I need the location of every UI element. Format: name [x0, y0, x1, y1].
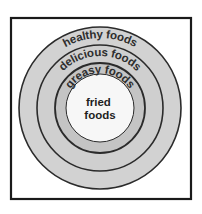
- label-fried-foods: fried foods: [84, 96, 115, 121]
- label-fried-foods-line1: fried: [86, 96, 111, 108]
- label-fried-foods-line2: foods: [84, 109, 115, 121]
- diagram-canvas: healthy foods delicious foods greasy foo…: [0, 0, 202, 214]
- nested-circles-diagram: healthy foods delicious foods greasy foo…: [0, 0, 202, 214]
